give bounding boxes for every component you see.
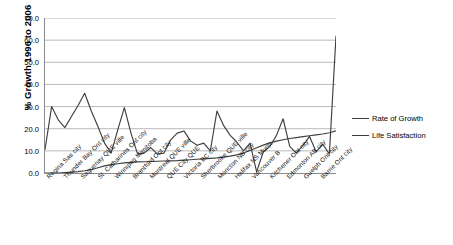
legend-swatch-life-satisfaction: [352, 135, 369, 136]
legend-item-life-satisfaction: Life Satisfaction: [352, 129, 452, 142]
x-axis-tick-labels: Regina Sas cityThunder Bay Ont citySague…: [0, 173, 453, 245]
legend-label-rate-of-growth: Rate of Growth: [372, 114, 423, 123]
legend-item-rate-of-growth: Rate of Growth: [352, 112, 452, 125]
legend-label-life-satisfaction: Life Satisfaction: [372, 131, 426, 140]
y-tick-30-0: 30.0: [5, 102, 39, 111]
chart-legend: Rate of Growth Life Satisfaction: [352, 112, 452, 146]
y-tick-70-0: 70.0: [5, 14, 39, 23]
y-tick-40-0: 40.0: [5, 80, 39, 89]
legend-swatch-rate-of-growth: [352, 118, 369, 119]
y-tick-50-0: 50.0: [5, 58, 39, 67]
y-tick-10-0: 10.0: [5, 146, 39, 155]
growth-vs-life-satisfaction-chart: % Growth 1996 to 2006 0.010.020.030.040.…: [0, 0, 453, 245]
y-tick-20-0: 20.0: [5, 124, 39, 133]
y-tick-60-0: 60.0: [5, 36, 39, 45]
